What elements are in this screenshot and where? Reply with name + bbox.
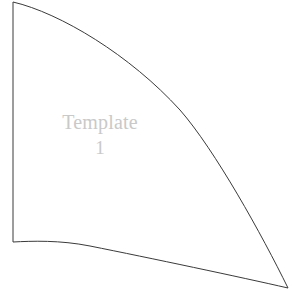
template-shape-svg: [0, 0, 304, 306]
template-canvas: Template 1: [0, 0, 304, 306]
template-1-outline-path[interactable]: [13, 2, 288, 288]
